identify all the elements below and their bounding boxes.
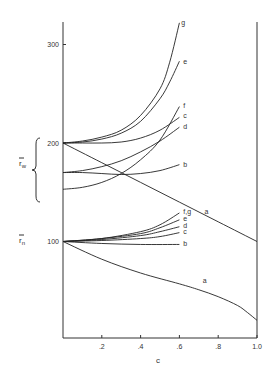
curve-rn-a — [63, 242, 257, 321]
axes: .2.4.6.81.0c100200300rwrn — [19, 22, 262, 365]
curve-label-rw-c: c — [183, 112, 187, 119]
curve-labels: abcdefgabcdef,g — [181, 19, 208, 284]
label-rw: rw — [19, 159, 27, 169]
curve-label-rn-d: d — [183, 222, 187, 229]
line-chart: .2.4.6.81.0c100200300rwrn abcdefgabcdef,… — [0, 0, 274, 375]
curve-label-rw-a: a — [205, 208, 209, 215]
x-tick-label: .6 — [176, 343, 182, 350]
curve-label-rw-f: f — [183, 102, 185, 109]
y-tick-label: 100 — [47, 238, 59, 245]
curve-rn-b — [63, 242, 179, 245]
curves — [63, 23, 257, 320]
curve-label-rn-a: a — [203, 277, 207, 284]
curve-label-rn-fg: f,g — [183, 208, 191, 216]
label-rn: rn — [19, 236, 25, 246]
x-tick-label: .2 — [99, 343, 105, 350]
x-axis-label: c — [156, 356, 160, 365]
x-tick-label: .4 — [138, 343, 144, 350]
curve-rw-g — [63, 23, 179, 143]
curve-label-rn-b: b — [183, 240, 187, 247]
curve-rw-d — [63, 127, 179, 172]
y-tick-label: 200 — [47, 140, 59, 147]
curve-rw-f — [63, 107, 179, 190]
curve-label-rw-g: g — [181, 19, 185, 27]
x-tick-label: 1.0 — [252, 343, 262, 350]
chart-container: .2.4.6.81.0c100200300rwrn abcdefgabcdef,… — [0, 0, 274, 375]
curve-label-rw-e: e — [183, 58, 187, 65]
curve-rw-a — [63, 143, 257, 242]
curve-label-rw-b: b — [183, 161, 187, 168]
curve-label-rw-d: d — [183, 123, 187, 130]
x-tick-label: .8 — [215, 343, 221, 350]
y-tick-label: 300 — [47, 41, 59, 48]
brace-rw — [32, 138, 40, 202]
curve-rw-e — [63, 61, 179, 143]
curve-label-rn-e: e — [183, 215, 187, 222]
